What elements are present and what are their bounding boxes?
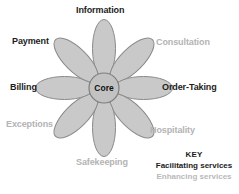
petal-label-safekeeping: Safekeeping [76,157,128,167]
petal-label-consultation: Consultation [156,37,210,47]
key-facilitating-label: Facilitating services [150,160,238,171]
key-enhancing-label: Enhancing services [150,171,238,182]
core-label: Core [88,83,120,93]
petal-label-hospitality: Hospitality [150,125,195,135]
key-title: KEY [150,150,238,160]
petal-label-order-taking: Order-Taking [162,82,217,92]
key-legend: KEY Facilitating services Enhancing serv… [150,150,238,182]
petal-label-exceptions: Exceptions [6,119,53,129]
petal-label-payment: Payment [12,36,49,46]
petal-label-information: Information [76,5,124,15]
flower-of-service-diagram: Core Information Consultation Order-Taki… [0,0,239,194]
petal-label-billing: Billing [10,82,37,92]
